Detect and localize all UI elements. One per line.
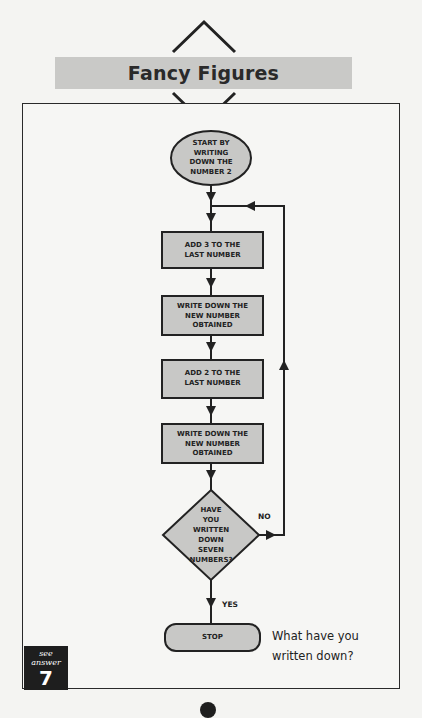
step-1-label: ADD 3 TO THE LAST NUMBER	[162, 241, 263, 260]
step-3-label: ADD 2 TO THE LAST NUMBER	[162, 369, 263, 388]
page-number-marker	[200, 702, 216, 718]
answer-number: 7	[24, 667, 68, 689]
stop-label: STOP	[165, 633, 260, 643]
decision-label: HAVE YOU WRITTEN DOWN SEVEN NUMBERS?	[171, 505, 251, 565]
yes-branch-label: YES	[222, 600, 238, 609]
step-4-label: WRITE DOWN THE NEW NUMBER OBTAINED	[162, 430, 263, 459]
question-text: What have you written down?	[272, 626, 382, 666]
see-answer-caption: see answer	[24, 649, 68, 667]
no-branch-label: NO	[258, 512, 271, 521]
see-answer-badge: see answer 7	[24, 646, 68, 690]
start-node-label: START BY WRITING DOWN THE NUMBER 2	[171, 139, 251, 177]
step-2-label: WRITE DOWN THE NEW NUMBER OBTAINED	[162, 302, 263, 331]
